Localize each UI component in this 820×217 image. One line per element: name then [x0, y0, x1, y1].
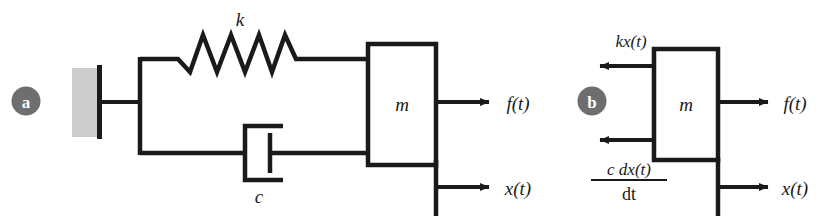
panel-b: b m kx(t) c dx(t) dt f(t) — [578, 32, 809, 217]
spring-force-label: kx(t) — [615, 32, 646, 51]
wall-hatch-block — [72, 68, 98, 137]
mass-label-a: m — [395, 94, 409, 115]
spring-element: k — [140, 9, 368, 73]
badge-label-a: a — [22, 93, 31, 112]
fixed-wall — [72, 65, 100, 139]
mass-block-b: m — [654, 49, 718, 160]
damper-force-numerator: c dx(t) — [607, 160, 651, 179]
damper-element: c — [140, 126, 368, 207]
displacement-label-a: x(t) — [504, 178, 531, 200]
mass-spring-damper-figure: a k — [0, 0, 820, 216]
applied-force-b: f(t) — [718, 93, 807, 115]
displacement-a: x(t) — [436, 160, 531, 216]
panel-b-badge: b — [578, 87, 607, 116]
applied-force-a: f(t) — [436, 93, 530, 115]
mass-block-a: m — [368, 44, 436, 165]
spring-force-b: kx(t) — [600, 32, 654, 67]
panel-a-badge: a — [12, 87, 41, 116]
panel-a: a k — [12, 9, 532, 217]
spring-zigzag — [140, 35, 368, 72]
badge-label-b: b — [587, 93, 596, 112]
figure-canvas: a k — [0, 0, 820, 216]
displacement-label-b: x(t) — [781, 178, 808, 200]
force-label-a: f(t) — [506, 93, 529, 115]
displacement-b: x(t) — [718, 158, 808, 216]
force-label-b: f(t) — [783, 93, 806, 115]
damping-coefficient-label: c — [255, 186, 264, 207]
damper-force-denominator: dt — [622, 184, 636, 204]
mass-label-b: m — [679, 94, 693, 115]
spring-constant-label: k — [236, 9, 245, 30]
